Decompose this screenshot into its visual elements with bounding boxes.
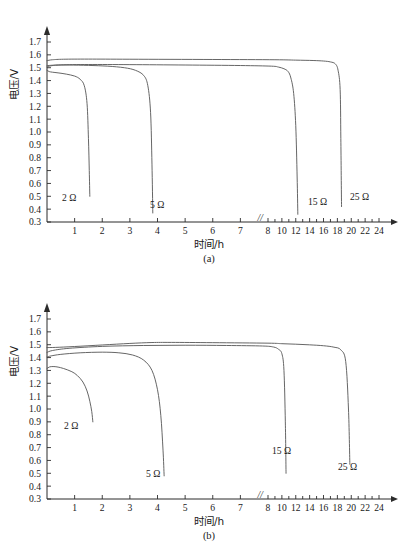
y-tick-label: 0.5 [29,191,41,202]
y-tick-label: 0.4 [29,204,41,215]
x-tick-label: 6 [210,502,215,513]
y-tick-label: 1.4 [29,352,41,363]
x-tick-label: 24 [374,502,384,513]
y-tick-label: 1.5 [29,62,41,73]
y-tick-label: 1.2 [29,378,41,389]
x-tick-label: 2 [100,502,105,513]
curve-label-2ohm: 2 Ω [62,192,76,203]
discharge-curves-plot-a: 1.71.61.51.41.31.21.11.00.90.80.70.60.50… [0,0,418,250]
x-axis-label-a: 时间/h [0,236,418,251]
y-tick-label: 1.0 [29,403,41,414]
y-tick-label: 1.6 [29,49,41,60]
panel-caption-a: (a) [0,253,418,264]
y-tick-label: 1.7 [29,36,41,47]
x-tick-label: 4 [155,225,160,236]
discharge-curve [47,367,93,422]
x-tick-label: 12 [291,225,301,236]
x-tick-label: 10 [277,225,287,236]
discharge-curve [47,352,164,476]
x-tick-label: 4 [155,502,160,513]
y-tick-label: 1.1 [29,114,41,125]
discharge-curve [47,342,350,464]
x-tick-label: 3 [127,225,132,236]
curve-label-5ohm: 5 Ω [146,468,160,479]
curve-label-5ohm: 5 Ω [150,199,164,210]
x-tick-label: 16 [319,502,329,513]
x-tick-label: 3 [127,502,132,513]
discharge-curve [47,70,90,196]
x-tick-label: 20 [346,225,356,236]
discharge-curve [47,65,153,213]
chart-panel-a: 1.71.61.51.41.31.21.11.00.90.80.70.60.50… [0,0,418,277]
y-tick-label: 1.3 [29,365,41,376]
axis-break-symbol: // [257,489,265,500]
y-tick-label: 1.3 [29,88,41,99]
y-axis-label-a: 电压/V [9,80,20,100]
x-tick-label: 12 [291,502,301,513]
curve-label-15ohm: 15 Ω [308,196,327,207]
x-tick-label: 22 [360,502,370,513]
y-tick-label: 1.5 [29,339,41,350]
x-tick-label: 7 [238,502,243,513]
x-tick-label: 8 [266,502,271,513]
x-tick-label: 8 [266,225,271,236]
x-tick-label: 18 [333,225,343,236]
y-tick-label: 0.5 [29,468,41,479]
y-tick-label: 0.9 [29,416,41,427]
figure-page: 1.71.61.51.41.31.21.11.00.90.80.70.60.50… [0,0,418,555]
y-tick-label: 1.0 [29,126,41,137]
y-tick-label: 0.4 [29,481,41,492]
y-tick-label: 1.2 [29,101,41,112]
x-tick-label: 10 [277,502,287,513]
y-tick-label: 0.9 [29,139,41,150]
y-tick-label: 0.8 [29,152,41,163]
y-tick-label: 1.7 [29,313,41,324]
discharge-curve [47,345,286,473]
x-tick-label: 22 [360,225,370,236]
axis-break-symbol: // [257,212,265,223]
y-tick-label: 1.1 [29,391,41,402]
curve-label-15ohm: 15 Ω [272,445,291,456]
x-tick-label: 14 [305,225,315,236]
y-tick-label: 0.7 [29,442,41,453]
x-tick-label: 16 [319,225,329,236]
x-tick-label: 14 [305,502,315,513]
curve-label-25ohm: 25 Ω [338,461,357,472]
y-tick-label: 0.7 [29,165,41,176]
x-tick-label: 20 [346,502,356,513]
x-tick-label: 2 [100,225,105,236]
y-tick-label: 0.8 [29,429,41,440]
curve-label-2ohm: 2 Ω [64,420,78,431]
x-tick-label: 7 [238,225,243,236]
chart-panel-b: 1.71.61.51.41.31.21.11.00.90.80.70.60.50… [0,277,418,554]
y-tick-label: 0.3 [29,493,41,504]
y-tick-label: 0.6 [29,178,41,189]
y-tick-label: 0.6 [29,455,41,466]
x-tick-label: 24 [374,225,384,236]
x-tick-label: 1 [72,225,77,236]
discharge-curves-plot-b: 1.71.61.51.41.31.21.11.00.90.80.70.60.50… [0,277,418,527]
y-tick-label: 0.3 [29,216,41,227]
x-axis-label-b: 时间/h [0,513,418,528]
x-tick-label: 5 [183,502,188,513]
x-tick-label: 18 [333,502,343,513]
panel-caption-b: (b) [0,530,418,541]
y-tick-label: 1.4 [29,75,41,86]
x-tick-label: 5 [183,225,188,236]
y-tick-label: 1.6 [29,326,41,337]
x-tick-label: 6 [210,225,215,236]
x-tick-label: 1 [72,502,77,513]
curve-label-25ohm: 25 Ω [350,191,369,202]
y-axis-label-b: 电压/V [9,357,20,377]
